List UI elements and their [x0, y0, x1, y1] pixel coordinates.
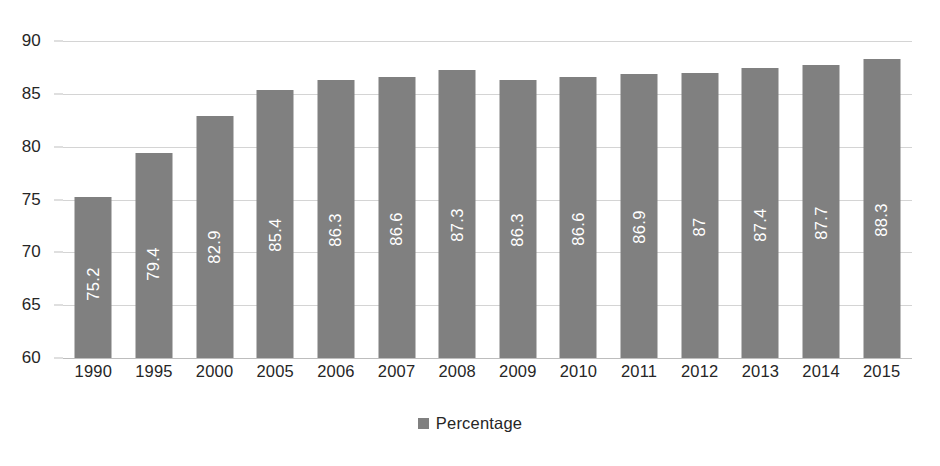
x-axis: 1990199520002005200620072008200920102011… — [63, 362, 912, 396]
y-tick-label-85: 85 — [22, 84, 41, 104]
gridline-60 — [63, 358, 912, 359]
x-tick-label-2008: 2008 — [438, 362, 476, 381]
bar-value-label-2013: 87.4 — [751, 208, 770, 241]
bar-2010[interactable]: 86.6 — [560, 77, 597, 358]
bar-2012[interactable]: 87 — [681, 73, 718, 358]
bar-slot: 86.9 — [609, 41, 670, 358]
legend-swatch-percentage — [418, 418, 429, 429]
x-tick-label-2006: 2006 — [317, 362, 355, 381]
y-tick-mark-65 — [54, 305, 63, 306]
x-tick-label-2000: 2000 — [196, 362, 234, 381]
bar-2014[interactable]: 87.7 — [803, 65, 840, 358]
bar-slot: 87.4 — [730, 41, 791, 358]
bar-slot: 75.2 — [63, 41, 124, 358]
x-tick-label-2011: 2011 — [621, 362, 657, 381]
x-tick-label-2012: 2012 — [681, 362, 719, 381]
bar-value-label-2006: 86.3 — [326, 213, 345, 246]
x-tick-label-2009: 2009 — [499, 362, 537, 381]
x-tick-label-2014: 2014 — [802, 362, 840, 381]
x-tick-label-2007: 2007 — [378, 362, 416, 381]
y-tick-label-75: 75 — [22, 190, 41, 210]
y-tick-mark-85 — [54, 93, 63, 94]
y-tick-mark-75 — [54, 199, 63, 200]
bar-value-label-2009: 86.3 — [508, 213, 527, 246]
y-tick-label-70: 70 — [22, 242, 41, 262]
bar-value-label-2010: 86.6 — [569, 212, 588, 245]
bar-value-label-1995: 79.4 — [144, 247, 163, 280]
x-tick-label-2013: 2013 — [742, 362, 780, 381]
bar-value-label-2015: 88.3 — [872, 204, 891, 237]
bar-slot: 86.3 — [306, 41, 367, 358]
bar-2008[interactable]: 87.3 — [439, 70, 476, 358]
bar-slot: 88.3 — [851, 41, 912, 358]
y-tick-mark-70 — [54, 252, 63, 253]
bar-2011[interactable]: 86.9 — [621, 74, 658, 358]
bar-slot: 82.9 — [184, 41, 245, 358]
bar-chart: 60657075808590 75.279.482.985.486.386.68… — [0, 0, 940, 466]
y-tick-label-60: 60 — [22, 348, 41, 368]
bar-2006[interactable]: 86.3 — [317, 80, 354, 358]
bar-slot: 86.6 — [548, 41, 609, 358]
y-axis: 60657075808590 — [0, 0, 63, 466]
x-tick-label-2010: 2010 — [560, 362, 598, 381]
y-tick-label-65: 65 — [22, 295, 41, 315]
bar-value-label-2007: 86.6 — [387, 212, 406, 245]
y-tick-label-90: 90 — [22, 31, 41, 51]
bar-slot: 86.6 — [366, 41, 427, 358]
bar-slot: 87.7 — [791, 41, 852, 358]
x-tick-label-1995: 1995 — [135, 362, 173, 381]
bar-value-label-2011: 86.9 — [630, 211, 649, 244]
bar-slot: 86.3 — [488, 41, 549, 358]
x-tick-label-1990: 1990 — [75, 362, 113, 381]
bar-1990[interactable]: 75.2 — [75, 197, 112, 358]
bar-value-label-2012: 87 — [690, 217, 709, 236]
y-tick-mark-90 — [54, 41, 63, 42]
bar-value-label-2008: 87.3 — [448, 209, 467, 242]
bar-value-label-1990: 75.2 — [84, 267, 103, 300]
y-tick-mark-80 — [54, 146, 63, 147]
bar-2013[interactable]: 87.4 — [742, 68, 779, 358]
bar-2007[interactable]: 86.6 — [378, 77, 415, 358]
bar-slot: 87.3 — [427, 41, 488, 358]
bar-value-label-2005: 85.4 — [266, 218, 285, 251]
bar-slot: 79.4 — [124, 41, 185, 358]
y-tick-mark-60 — [54, 358, 63, 359]
bars-layer: 75.279.482.985.486.386.687.386.386.686.9… — [63, 41, 912, 358]
x-tick-label-2005: 2005 — [256, 362, 294, 381]
bar-2005[interactable]: 85.4 — [257, 90, 294, 358]
bar-slot: 87 — [669, 41, 730, 358]
bar-2009[interactable]: 86.3 — [499, 80, 536, 358]
bar-2000[interactable]: 82.9 — [196, 116, 233, 358]
bar-1995[interactable]: 79.4 — [135, 153, 172, 358]
y-tick-label-80: 80 — [22, 137, 41, 157]
x-tick-label-2015: 2015 — [863, 362, 901, 381]
bar-value-label-2000: 82.9 — [205, 230, 224, 263]
chart-legend: Percentage — [0, 414, 940, 433]
bar-value-label-2014: 87.7 — [812, 207, 831, 240]
legend-label-percentage: Percentage — [436, 414, 522, 433]
bar-2015[interactable]: 88.3 — [863, 59, 900, 358]
bar-slot: 85.4 — [245, 41, 306, 358]
